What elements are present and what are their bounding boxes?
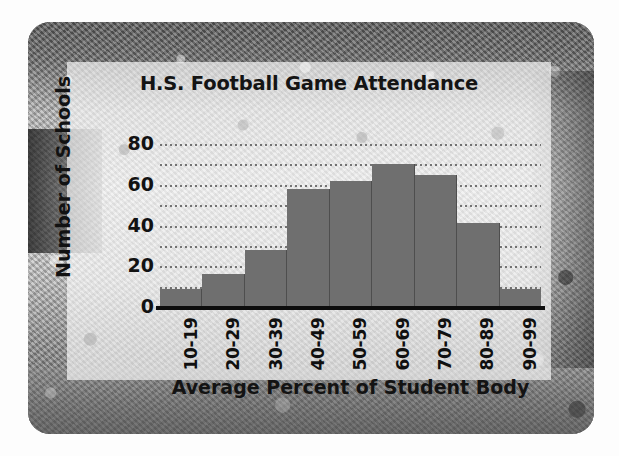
- x-tick-label: 70-79: [414, 314, 456, 376]
- y-tick-label: 20: [114, 256, 154, 275]
- bar: [287, 189, 329, 307]
- x-tick-label: 80-89: [456, 314, 498, 376]
- bar: [202, 274, 244, 307]
- y-tick-label: 80: [114, 134, 154, 153]
- bar: [160, 289, 202, 307]
- plot-area: [160, 144, 541, 307]
- x-tick-label: 30-39: [245, 314, 287, 376]
- bar: [415, 175, 457, 307]
- bar: [245, 250, 287, 307]
- x-tick-label: 60-69: [372, 314, 414, 376]
- bar: [372, 164, 414, 307]
- y-axis-title: Number of Schools: [52, 88, 74, 278]
- bar: [330, 181, 372, 307]
- y-tick-label: 60: [114, 175, 154, 194]
- page-root: H.S. Football Game Attendance 020406080 …: [0, 0, 619, 456]
- x-axis-line: [156, 306, 545, 310]
- x-tick-label: 10-19: [160, 314, 202, 376]
- x-axis-tick-labels: 10-1920-2930-3940-4950-5960-6970-7980-89…: [160, 314, 541, 376]
- photo-card: H.S. Football Game Attendance 020406080 …: [28, 22, 594, 434]
- bar: [457, 223, 499, 307]
- x-tick-label: 50-59: [329, 314, 371, 376]
- x-tick-label: 20-29: [202, 314, 244, 376]
- y-tick-label: 40: [114, 216, 154, 235]
- x-axis-title: Average Percent of Student Body: [160, 376, 541, 398]
- x-tick-label: 40-49: [287, 314, 329, 376]
- bar-series: [160, 144, 541, 307]
- x-tick-label: 90-99: [499, 314, 541, 376]
- y-tick-label: 0: [114, 297, 154, 316]
- bar: [500, 289, 541, 307]
- y-axis-ticks: 020406080: [106, 22, 154, 434]
